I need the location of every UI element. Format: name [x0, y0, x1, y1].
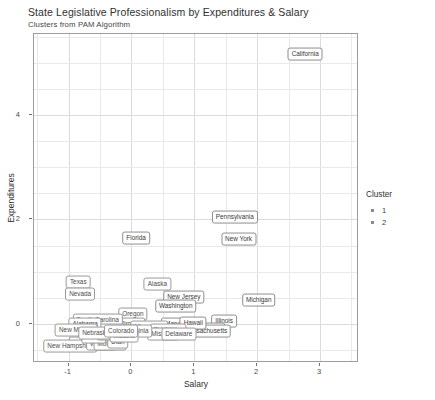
gridline-horizontal	[34, 89, 357, 90]
data-point-label: Florida	[122, 232, 150, 245]
gridline-vertical	[37, 34, 38, 361]
gridline-horizontal	[34, 272, 357, 273]
gridline-horizontal	[34, 219, 357, 220]
legend-marker-icon	[366, 207, 378, 214]
gridline-horizontal	[34, 141, 357, 142]
data-point-label: Michigan	[242, 294, 276, 307]
y-tick-label: 2	[16, 214, 20, 223]
legend-entries: 12	[366, 204, 392, 228]
legend-entry: 2	[366, 216, 392, 228]
data-point-label: Colorado	[104, 324, 138, 337]
legend-entry: 1	[366, 204, 392, 216]
x-tick	[130, 363, 131, 366]
y-tick	[29, 114, 32, 115]
data-point-label: New York	[221, 233, 256, 246]
x-tick	[256, 363, 257, 366]
gridline-vertical	[289, 34, 290, 361]
data-point-label: Pennsylvania	[212, 211, 258, 224]
chart-title: State Legislative Professionalism by Exp…	[28, 6, 309, 18]
y-tick-label: 4	[16, 109, 20, 118]
chart-subtitle: Clusters from PAM Algorithm	[28, 20, 130, 29]
legend-entry-label: 2	[382, 218, 386, 227]
gridline-vertical	[320, 34, 321, 361]
gridline-horizontal	[34, 193, 357, 194]
gridline-vertical	[100, 34, 101, 361]
x-tick-label: 2	[254, 367, 258, 376]
x-tick	[319, 363, 320, 366]
legend-title: Cluster	[366, 190, 392, 199]
gridline-vertical	[69, 34, 70, 361]
data-point-label: Delaware	[161, 328, 196, 341]
data-point-label: Nevada	[65, 288, 95, 301]
x-axis-title: Salary	[184, 379, 208, 389]
gridline-vertical	[351, 34, 352, 361]
legend-entry-label: 1	[382, 206, 386, 215]
gridline-horizontal	[34, 63, 357, 64]
x-tick-label: -1	[64, 367, 71, 376]
legend: Cluster 12	[366, 190, 392, 228]
gridline-vertical	[226, 34, 227, 361]
y-tick	[29, 323, 32, 324]
y-tick-label: 0	[16, 318, 20, 327]
x-tick-label: 0	[128, 367, 132, 376]
chart-root: State Legislative Professionalism by Exp…	[0, 0, 435, 400]
x-tick	[68, 363, 69, 366]
y-axis-title: Expenditures	[6, 173, 16, 223]
y-tick	[29, 218, 32, 219]
legend-marker-icon	[366, 219, 378, 226]
data-point-label: Washington	[155, 299, 197, 312]
gridline-horizontal	[34, 115, 357, 116]
data-point-label: California	[288, 48, 323, 61]
data-point-label: Texas	[66, 276, 91, 289]
x-tick	[193, 363, 194, 366]
data-point-label: Alaska	[144, 278, 171, 291]
gridline-horizontal	[34, 37, 357, 38]
gridline-vertical	[257, 34, 258, 361]
x-tick-label: 3	[317, 367, 321, 376]
x-tick-label: 1	[191, 367, 195, 376]
gridline-horizontal	[34, 246, 357, 247]
gridline-horizontal	[34, 167, 357, 168]
